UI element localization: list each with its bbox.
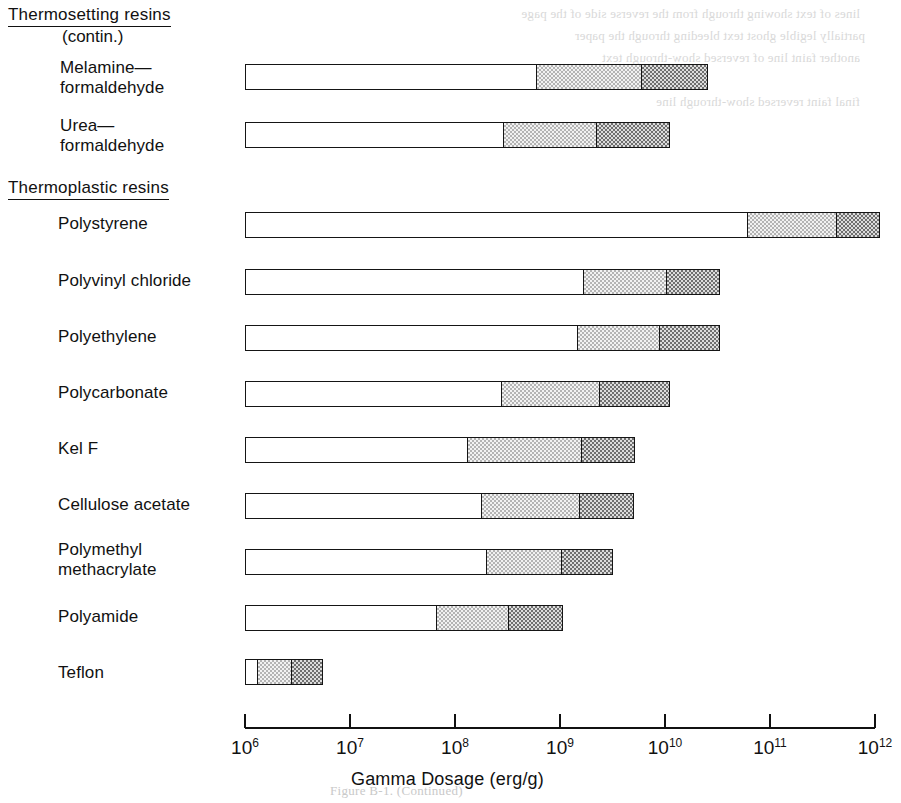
bar bbox=[245, 212, 880, 238]
figure-caption: Figure B-1. (Continued) bbox=[330, 783, 463, 799]
bar bbox=[245, 325, 720, 351]
bar bbox=[245, 269, 720, 295]
bar-segment-moderate bbox=[481, 494, 579, 518]
axis-tick bbox=[559, 714, 561, 728]
row-label: Polymethyl methacrylate bbox=[58, 540, 157, 580]
axis-tick-label: 1010 bbox=[648, 737, 683, 759]
heading-underline bbox=[8, 199, 169, 200]
bar-segment-mild bbox=[246, 326, 577, 350]
bar-segment-moderate bbox=[467, 438, 581, 462]
bar-segment-severe bbox=[291, 660, 322, 684]
axis-tick bbox=[454, 714, 456, 728]
axis-tick bbox=[244, 714, 246, 728]
bar bbox=[245, 122, 670, 148]
bar-segment-mild bbox=[246, 660, 257, 684]
bar-segment-moderate bbox=[503, 123, 595, 147]
bar-segment-mild bbox=[246, 494, 481, 518]
bar-segment-severe bbox=[836, 213, 879, 237]
bar-segment-moderate bbox=[583, 270, 666, 294]
bar-segment-mild bbox=[246, 213, 747, 237]
group-heading-thermosetting: Thermosetting resins bbox=[8, 4, 171, 27]
bar-segment-mild bbox=[246, 123, 503, 147]
axis-tick-label: 1012 bbox=[858, 737, 893, 759]
bleedthrough-line: final faint reversed show-through line bbox=[385, 94, 860, 110]
row-label: Melamine— formaldehyde bbox=[60, 58, 164, 98]
bar-segment-mild bbox=[246, 606, 436, 630]
row-label: Kel F bbox=[58, 439, 98, 459]
group-heading-thermoplastic: Thermoplastic resins bbox=[8, 177, 169, 200]
axis-tick-label: 106 bbox=[231, 737, 259, 759]
row-label: Cellulose acetate bbox=[58, 495, 190, 515]
bar bbox=[245, 549, 613, 575]
bar bbox=[245, 493, 634, 519]
bleedthrough-line: partially legible ghost text bleeding th… bbox=[395, 28, 865, 44]
bar-segment-severe bbox=[599, 382, 669, 406]
row-label: Polyethylene bbox=[58, 327, 157, 347]
bar-segment-mild bbox=[246, 65, 536, 89]
bar bbox=[245, 659, 323, 685]
row-label: Urea— formaldehyde bbox=[60, 116, 164, 156]
bar-segment-moderate bbox=[501, 382, 599, 406]
bar-segment-severe bbox=[641, 65, 707, 89]
bar-segment-mild bbox=[246, 382, 501, 406]
bar-segment-severe bbox=[659, 326, 719, 350]
group-heading-text: Thermosetting resins bbox=[8, 5, 171, 24]
axis-tick bbox=[769, 714, 771, 728]
bar bbox=[245, 605, 563, 631]
row-label: Polyvinyl chloride bbox=[58, 271, 191, 291]
radiation-resistance-chart: lines of text showing through from the r… bbox=[0, 0, 901, 803]
bar-segment-moderate bbox=[436, 606, 508, 630]
axis-tick-label: 1011 bbox=[753, 737, 787, 759]
bar bbox=[245, 64, 708, 90]
bar-segment-mild bbox=[246, 550, 486, 574]
bar bbox=[245, 381, 670, 407]
row-label: Polyamide bbox=[58, 607, 138, 627]
bar-segment-severe bbox=[581, 438, 634, 462]
bleedthrough-line: lines of text showing through from the r… bbox=[430, 6, 860, 22]
row-label: Teflon bbox=[58, 663, 104, 683]
bar-segment-severe bbox=[508, 606, 562, 630]
bar-segment-moderate bbox=[486, 550, 561, 574]
axis-tick-label: 109 bbox=[546, 737, 574, 759]
group-heading-text: Thermoplastic resins bbox=[8, 178, 169, 197]
bar bbox=[245, 437, 635, 463]
bar-segment-severe bbox=[666, 270, 719, 294]
row-label: Polycarbonate bbox=[58, 383, 168, 403]
bar-segment-moderate bbox=[577, 326, 659, 350]
bar-segment-severe bbox=[596, 123, 670, 147]
axis-tick bbox=[874, 714, 876, 728]
axis-tick bbox=[349, 714, 351, 728]
bar-segment-mild bbox=[246, 270, 583, 294]
bar-segment-moderate bbox=[257, 660, 292, 684]
bar-segment-severe bbox=[561, 550, 612, 574]
bar-segment-moderate bbox=[747, 213, 836, 237]
axis-tick-label: 108 bbox=[441, 737, 469, 759]
bar-segment-severe bbox=[579, 494, 633, 518]
bar-segment-moderate bbox=[536, 65, 641, 89]
bar-segment-mild bbox=[246, 438, 467, 462]
row-label: Polystyrene bbox=[58, 214, 148, 234]
axis-tick-label: 107 bbox=[336, 737, 364, 759]
axis-tick bbox=[664, 714, 666, 728]
group-subheading-contin: (contin.) bbox=[62, 26, 123, 47]
